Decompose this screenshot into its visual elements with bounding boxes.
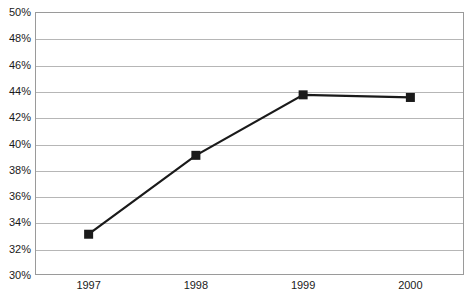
y-tick-label: 42% xyxy=(0,112,31,123)
x-tick-label: 1998 xyxy=(166,279,226,292)
gridline xyxy=(36,250,463,251)
gridline xyxy=(36,66,463,67)
y-tick-label: 50% xyxy=(0,7,31,18)
y-tick-label: 34% xyxy=(0,217,31,228)
y-tick-label: 48% xyxy=(0,33,31,44)
x-axis-tick-labels: 1997199819992000 xyxy=(35,279,464,295)
y-tick-label: 46% xyxy=(0,60,31,71)
gridline xyxy=(36,171,463,172)
gridline xyxy=(36,197,463,198)
y-tick-label: 44% xyxy=(0,86,31,97)
x-tick-label: 2000 xyxy=(380,279,440,292)
gridline xyxy=(36,39,463,40)
y-tick-label: 38% xyxy=(0,165,31,176)
x-tick-label: 1999 xyxy=(273,279,333,292)
x-tick-label: 1997 xyxy=(59,279,119,292)
y-tick-label: 30% xyxy=(0,270,31,281)
y-axis-tick-labels: 50%48%46%44%42%40%38%36%34%32%30% xyxy=(0,12,31,275)
gridline xyxy=(36,145,463,146)
y-tick-label: 36% xyxy=(0,191,31,202)
gridline xyxy=(36,223,463,224)
y-tick-label: 32% xyxy=(0,244,31,255)
y-tick-label: 40% xyxy=(0,139,31,150)
plot-area xyxy=(35,12,464,275)
gridline xyxy=(36,92,463,93)
line-chart: 50%48%46%44%42%40%38%36%34%32%30% 199719… xyxy=(0,0,472,308)
gridline xyxy=(36,118,463,119)
